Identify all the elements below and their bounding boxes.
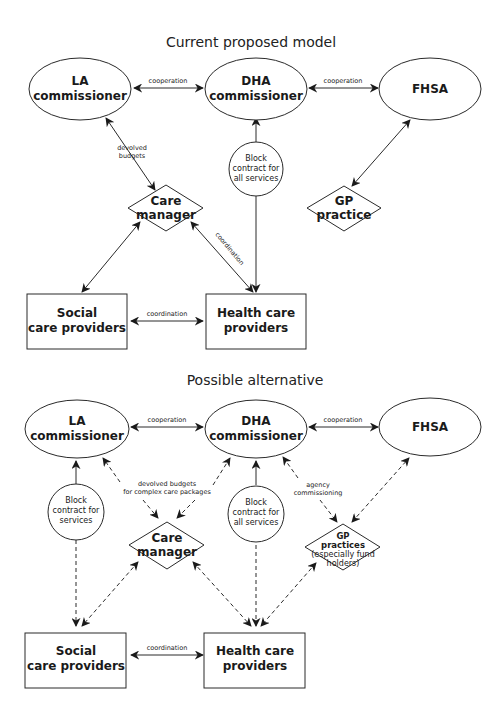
edge-caremanager-social-dashed	[82, 562, 138, 626]
svg-text:LA: LA	[69, 414, 87, 428]
edge-label: coordination	[147, 644, 188, 652]
svg-text:Health care: Health care	[217, 306, 295, 320]
edge-label: devolved budgets	[138, 480, 197, 488]
node-health-care-providers: Health care providers	[206, 294, 306, 349]
node-social-care-providers: Social care providers	[25, 633, 126, 688]
svg-text:practices: practices	[321, 540, 365, 550]
edge-fhsa-gp	[352, 120, 410, 186]
svg-text:care providers: care providers	[27, 659, 125, 673]
edge-agency-dha-dashed	[283, 457, 298, 478]
edge-label: budgets	[119, 152, 146, 160]
svg-text:Health care: Health care	[216, 644, 294, 658]
edge-label: agency	[306, 481, 330, 489]
edge-devolved-caremanager-2	[177, 500, 195, 518]
node-care-manager: Care manager	[129, 522, 204, 569]
svg-text:Social: Social	[57, 306, 97, 320]
possible-alternative: Possible alternative cooperation coopera…	[25, 372, 481, 688]
edge-caremanager-dha-dashed	[213, 458, 230, 485]
node-gp-practice: GP practice	[307, 186, 381, 231]
svg-text:providers: providers	[224, 321, 288, 335]
svg-text:practice: practice	[317, 208, 372, 222]
svg-text:FHSA: FHSA	[412, 420, 449, 434]
svg-text:services: services	[60, 516, 93, 525]
node-dha-commissioner: DHA commissioner	[205, 400, 307, 458]
node-dha-commissioner: DHA commissioner	[205, 58, 307, 120]
edge-label: for complex care packages	[123, 488, 211, 496]
svg-text:Block: Block	[245, 154, 267, 163]
node-block-contract-la: Block contract for services	[48, 484, 104, 540]
svg-text:Care: Care	[151, 194, 182, 208]
current-proposed-model: Current proposed model cooperation coope…	[27, 34, 481, 349]
node-care-manager: Care manager	[128, 185, 203, 231]
svg-text:holders): holders)	[327, 559, 360, 568]
node-fhsa: FHSA	[379, 58, 481, 120]
svg-text:contract for: contract for	[53, 506, 100, 515]
diagram-title: Possible alternative	[187, 372, 324, 388]
edge-label: cooperation	[149, 77, 188, 85]
edge-gp-health-dashed	[261, 563, 316, 626]
node-social-care-providers: Social care providers	[27, 294, 127, 349]
svg-text:commissioner: commissioner	[209, 429, 303, 443]
svg-text:commissioner: commissioner	[33, 89, 127, 103]
svg-text:Social: Social	[56, 644, 96, 658]
edge-label: cooperation	[148, 416, 187, 424]
diagram-title: Current proposed model	[166, 34, 336, 50]
svg-text:Block: Block	[65, 496, 87, 505]
svg-text:(especially fund: (especially fund	[311, 550, 375, 559]
svg-text:Block: Block	[245, 498, 267, 507]
edge-fhsa-gp-dashed	[352, 458, 409, 522]
edge-agency-gp-dashed	[320, 500, 337, 522]
edge-label: commissioning	[294, 489, 343, 497]
node-fhsa: FHSA	[379, 398, 481, 456]
svg-text:commissioner: commissioner	[30, 429, 124, 443]
svg-text:contract for: contract for	[233, 164, 280, 173]
svg-text:FHSA: FHSA	[412, 82, 449, 96]
svg-text:providers: providers	[223, 659, 287, 673]
node-health-care-providers: Health care providers	[204, 633, 305, 688]
node-la-commissioner: LA commissioner	[29, 58, 131, 120]
svg-text:manager: manager	[136, 208, 196, 222]
edge-caremanager-la-dashed	[103, 458, 120, 482]
diagram-canvas: Current proposed model cooperation coope…	[0, 0, 503, 702]
svg-text:contract for: contract for	[233, 508, 280, 517]
svg-text:manager: manager	[137, 545, 197, 559]
node-la-commissioner: LA commissioner	[25, 400, 129, 458]
edge-label: coordination	[213, 231, 245, 267]
svg-text:LA: LA	[72, 74, 90, 88]
node-block-contract-dha: Block contract for all services	[228, 486, 284, 542]
svg-text:commissioner: commissioner	[209, 89, 303, 103]
edge-label: devolved	[117, 144, 147, 152]
svg-text:all services: all services	[234, 518, 279, 527]
edge-label: coordination	[147, 310, 188, 318]
svg-text:DHA: DHA	[241, 74, 271, 88]
svg-text:DHA: DHA	[241, 414, 271, 428]
svg-text:all services: all services	[234, 174, 279, 183]
edge-label: cooperation	[324, 77, 363, 85]
svg-text:care providers: care providers	[28, 321, 126, 335]
edge-caremanager-health-dashed	[193, 562, 251, 626]
svg-text:Care: Care	[152, 531, 183, 545]
svg-text:GP: GP	[335, 194, 354, 208]
edge-label: cooperation	[324, 416, 363, 424]
edge-caremanager-social	[82, 222, 140, 292]
node-gp-practices: GP practices (especially fund holders)	[305, 524, 380, 570]
edge-devolved-caremanager	[143, 500, 158, 518]
node-block-contract: Block contract for all services	[229, 142, 283, 196]
